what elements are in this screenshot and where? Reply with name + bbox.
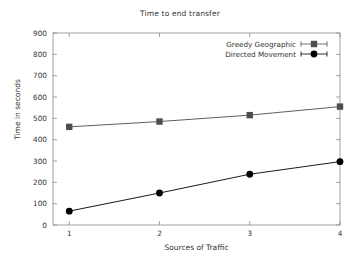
y-tick-label: 700 — [33, 71, 47, 80]
y-tick-label: 100 — [33, 199, 47, 208]
y-tick-label: 200 — [33, 178, 47, 187]
data-point-marker — [337, 103, 343, 109]
legend-label: Greedy Geographic — [226, 40, 296, 49]
legend-marker — [311, 41, 317, 47]
x-tick-label: 1 — [67, 229, 72, 238]
x-tick-label: 3 — [247, 229, 252, 238]
legend-marker — [311, 51, 318, 58]
x-tick-label: 4 — [338, 229, 343, 238]
chart-container: Time to end transfer Time in seconds Sou… — [0, 0, 360, 261]
data-series-layer — [66, 103, 344, 214]
y-tick-label: 800 — [33, 50, 47, 59]
y-tick-label: 900 — [33, 29, 47, 38]
y-axis-ticks: 0100200300400500600700800900 — [33, 29, 340, 230]
y-tick-label: 0 — [42, 221, 47, 230]
series-directed-movement — [66, 158, 344, 214]
y-tick-label: 500 — [33, 114, 47, 123]
data-point-marker — [247, 112, 253, 118]
data-point-marker — [156, 190, 163, 197]
plot-svg: 0100200300400500600700800900 1234 Greedy… — [0, 0, 360, 261]
y-tick-label: 400 — [33, 135, 47, 144]
plot-frame — [53, 33, 340, 225]
data-point-marker — [246, 171, 253, 178]
legend-label: Directed Movement — [225, 50, 296, 59]
y-tick-label: 600 — [33, 93, 47, 102]
chart-legend: Greedy GeographicDirected Movement — [225, 40, 327, 59]
data-point-marker — [337, 158, 344, 165]
data-point-marker — [66, 124, 72, 130]
y-tick-label: 300 — [33, 157, 47, 166]
series-greedy-geographic — [66, 103, 343, 130]
x-axis-ticks: 1234 — [67, 33, 343, 238]
data-point-marker — [66, 208, 73, 215]
x-tick-label: 2 — [157, 229, 162, 238]
data-point-marker — [156, 118, 162, 124]
